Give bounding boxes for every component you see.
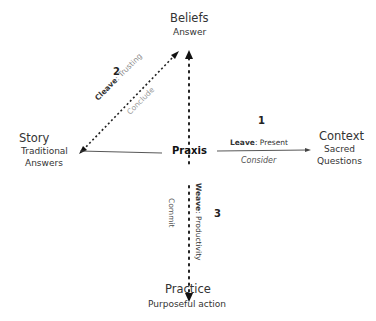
edge-weave-number: 3	[214, 208, 221, 219]
node-story-subtitle-2: Answers	[25, 158, 63, 169]
arrow-up-icon	[185, 50, 193, 59]
arrow-ne-icon	[171, 51, 179, 59]
arrow-sw-icon	[79, 146, 87, 154]
edge-leave-quality: : Present	[255, 138, 288, 147]
edge-leave-number: 1	[258, 115, 265, 126]
node-praxis: Praxis	[172, 145, 207, 156]
edge-weave-action: Commit	[167, 198, 176, 227]
node-context-subtitle-1: Sacred	[324, 144, 355, 155]
node-practice-title: Practice	[165, 282, 211, 296]
line-left	[80, 151, 162, 153]
node-practice-subtitle: Purposeful action	[148, 299, 226, 310]
node-context-title: Context	[319, 129, 364, 143]
node-beliefs-subtitle: Answer	[173, 27, 206, 38]
edge-leave-verb: Leave	[230, 138, 255, 147]
edge-weave-quality: : Productivity	[194, 211, 203, 260]
node-story-subtitle-1: Traditional	[21, 146, 68, 157]
edge-leave-label: Leave: Present	[230, 138, 288, 147]
node-story-title: Story	[19, 131, 49, 145]
node-beliefs-title: Beliefs	[170, 11, 208, 25]
edge-weave-label: Weave: Productivity	[194, 183, 203, 261]
edge-leave-action: Consider	[241, 156, 276, 165]
edge-weave-verb: Weave	[194, 183, 203, 211]
line-right	[217, 150, 308, 151]
arrow-right-icon	[305, 148, 311, 152]
node-context-subtitle-2: Questions	[317, 156, 362, 167]
